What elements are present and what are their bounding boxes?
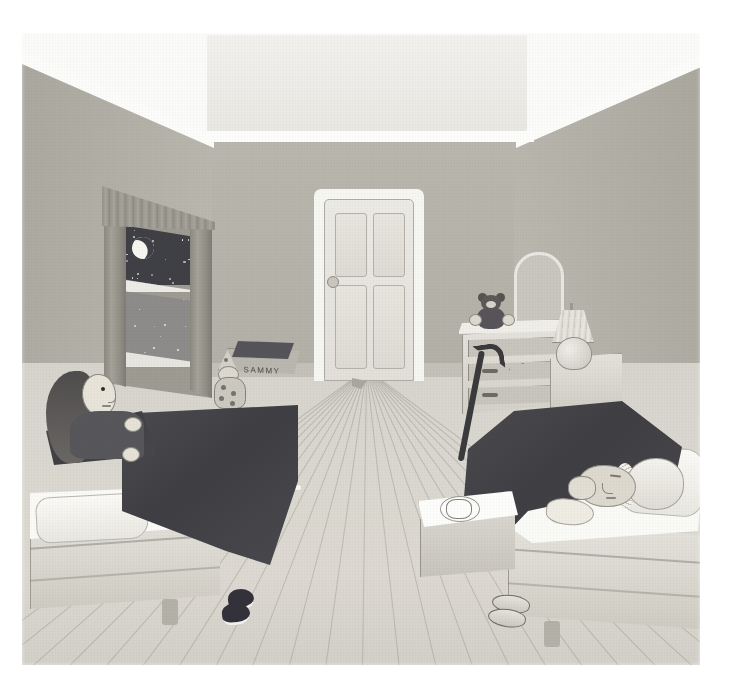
star (134, 325, 136, 327)
clown-dot (231, 391, 236, 396)
door-panel-top-right (373, 213, 405, 277)
star (139, 309, 140, 310)
star (183, 261, 186, 264)
star (137, 273, 139, 275)
star (152, 240, 154, 242)
star (138, 247, 139, 248)
girl-hand-upper (124, 417, 142, 432)
window-lower-sash (122, 291, 195, 363)
star (177, 349, 179, 351)
star (137, 278, 138, 279)
curtain-right (190, 220, 212, 398)
cornice-back (200, 131, 534, 142)
star (153, 347, 155, 349)
clown-hat-dot (224, 358, 228, 362)
grandmother-hand (568, 476, 596, 500)
teddy-arm-right (502, 314, 515, 326)
star (169, 278, 171, 280)
toy-box-lid (232, 341, 294, 359)
star (164, 324, 166, 326)
star (165, 259, 167, 261)
teddy-arm-left (469, 314, 482, 326)
star (172, 282, 174, 284)
star (188, 239, 190, 241)
clown-dot (230, 401, 235, 406)
clown-dot (221, 385, 226, 390)
door-panel-top-left (335, 213, 367, 277)
star (134, 241, 137, 244)
star (133, 236, 135, 238)
girl-eye (101, 387, 105, 391)
star (126, 254, 128, 256)
star (185, 326, 186, 327)
teddy-muzzle (486, 301, 496, 308)
star (188, 259, 190, 261)
left-bed-foot (162, 599, 178, 625)
grandmother-mouth (606, 497, 616, 499)
table-lamp[interactable] (556, 337, 592, 370)
floor-plank (362, 369, 367, 665)
star (154, 326, 155, 327)
star (151, 274, 153, 276)
clown-dot (219, 396, 224, 401)
girl-hand-lower (122, 447, 140, 462)
stars-lower (122, 291, 195, 363)
star (134, 230, 135, 231)
teacup[interactable] (446, 499, 472, 519)
ceiling-inner-panel (207, 35, 527, 139)
drawer-pull[interactable] (482, 393, 498, 397)
illustration-page: SAMMY (0, 0, 730, 697)
grandmother-nose (602, 483, 613, 494)
door-panel-bottom-left (335, 285, 367, 369)
star (132, 277, 134, 279)
star (144, 352, 146, 354)
star (160, 336, 161, 337)
door-panel-bottom-right (373, 285, 405, 369)
star (182, 239, 184, 241)
bedroom-illustration: SAMMY (22, 33, 700, 665)
right-bed-foot (544, 621, 560, 647)
girl-mouth (102, 405, 111, 407)
doorknob-icon[interactable] (327, 276, 339, 288)
star (126, 260, 128, 262)
